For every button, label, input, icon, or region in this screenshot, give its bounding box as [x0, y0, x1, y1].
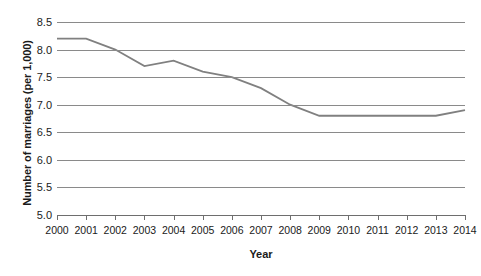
- x-axis-tick-mark: [348, 215, 349, 220]
- x-axis-tick-label: 2004: [162, 224, 185, 236]
- x-axis-tick-label: 2012: [395, 224, 418, 236]
- y-axis-tick-labels: 8.58.07.57.06.56.05.55.0: [14, 22, 52, 215]
- x-axis-tick-mark: [115, 215, 116, 220]
- x-axis-tick-label: 2005: [191, 224, 214, 236]
- x-axis-tick-label: 2013: [424, 224, 447, 236]
- x-axis-tick-mark: [86, 215, 87, 220]
- x-axis-tick-mark: [203, 215, 204, 220]
- gridline: [57, 50, 465, 51]
- x-axis-title: Year: [57, 248, 465, 260]
- line-series-marriages: [57, 22, 465, 215]
- x-axis-tick-label: 2007: [249, 224, 272, 236]
- y-axis-tick-label: 6.0: [18, 154, 52, 166]
- gridline: [57, 22, 465, 23]
- x-axis-tick-label: 2008: [278, 224, 301, 236]
- x-axis-tick-label: 2001: [74, 224, 97, 236]
- x-axis-tick-labels: 2000200120022003200420052006200720082009…: [57, 224, 465, 240]
- x-axis-tick-mark: [319, 215, 320, 220]
- x-axis-tick-label: 2011: [366, 224, 389, 236]
- x-axis-tick-marks: [57, 215, 465, 221]
- y-axis-tick-label: 7.0: [18, 99, 52, 111]
- gridline: [57, 132, 465, 133]
- x-axis-tick-mark: [174, 215, 175, 220]
- x-axis-tick-label: 2010: [337, 224, 360, 236]
- x-axis-tick-mark: [407, 215, 408, 220]
- x-axis-tick-label: 2000: [45, 224, 68, 236]
- x-axis-tick-mark: [436, 215, 437, 220]
- y-axis-tick-label: 8.0: [18, 44, 52, 56]
- y-axis-tick-label: 5.5: [18, 181, 52, 193]
- gridline: [57, 105, 465, 106]
- gridline: [57, 160, 465, 161]
- x-axis-tick-mark: [290, 215, 291, 220]
- y-axis-tick-label: 7.5: [18, 71, 52, 83]
- x-axis-tick-mark: [232, 215, 233, 220]
- x-axis-tick-label: 2009: [308, 224, 331, 236]
- x-axis-tick-mark: [144, 215, 145, 220]
- gridline: [57, 187, 465, 188]
- x-axis-tick-label: 2002: [104, 224, 127, 236]
- gridline: [57, 77, 465, 78]
- x-axis-tick-mark: [261, 215, 262, 220]
- x-axis-tick-mark: [465, 215, 466, 220]
- x-axis-tick-mark: [378, 215, 379, 220]
- y-axis-tick-label: 6.5: [18, 126, 52, 138]
- x-axis-tick-label: 2003: [133, 224, 156, 236]
- y-axis-tick-label: 5.0: [18, 209, 52, 221]
- y-axis-tick-label: 8.5: [18, 16, 52, 28]
- x-axis-tick-label: 2014: [453, 224, 476, 236]
- x-axis-tick-mark: [57, 215, 58, 220]
- chart-figure: Number of marriages (per 1,000) 8.58.07.…: [0, 0, 481, 276]
- x-axis-tick-label: 2006: [220, 224, 243, 236]
- plot-area: [57, 22, 465, 215]
